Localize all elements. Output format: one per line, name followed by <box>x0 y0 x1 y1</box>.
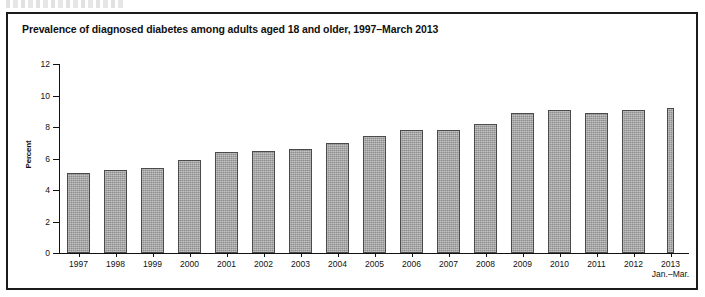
y-axis-tick-label-wrap: 8 <box>16 127 50 128</box>
x-axis-label-1997: 1997 <box>69 259 88 269</box>
x-axis-label-2006: 2006 <box>402 259 421 269</box>
y-axis-tick-label-wrap: 0 <box>16 253 50 254</box>
x-axis-label-1998: 1998 <box>106 259 125 269</box>
y-axis-tick-label: 10 <box>20 91 50 101</box>
x-axis-sublabel-2013: Jan.–Mar. <box>652 269 689 279</box>
bar-slot <box>326 64 349 253</box>
bar-slot <box>67 64 90 253</box>
bar-slot <box>104 64 127 253</box>
x-axis-tick <box>227 253 228 257</box>
plot-area: 024681012 Percent 1997199819992000200120… <box>8 14 700 292</box>
y-axis-tick <box>53 222 59 223</box>
x-axis-tick <box>190 253 191 257</box>
bar-slot <box>437 64 460 253</box>
x-axis-tick <box>264 253 265 257</box>
chart-figure: Prevalence of diagnosed diabetes among a… <box>6 12 698 290</box>
x-axis-label-2001: 2001 <box>217 259 236 269</box>
bar-1999 <box>141 168 164 253</box>
bar-slot <box>474 64 497 253</box>
bar-2010 <box>548 110 571 253</box>
x-axis-label-2002: 2002 <box>254 259 273 269</box>
bar-2007 <box>437 130 460 253</box>
bar-series <box>60 64 689 253</box>
bar-slot <box>667 64 673 253</box>
bar-slot <box>252 64 275 253</box>
x-axis-tick <box>634 253 635 257</box>
x-axis-label-2010: 2010 <box>550 259 569 269</box>
bar-2009 <box>511 113 534 253</box>
bar-slot <box>178 64 201 253</box>
bar-2011 <box>585 113 608 253</box>
x-axis-tick <box>301 253 302 257</box>
y-axis-tick <box>53 96 59 97</box>
x-axis-tick <box>671 253 672 257</box>
x-axis-label-2012: 2012 <box>624 259 643 269</box>
y-axis-tick <box>53 190 59 191</box>
bar-slot <box>141 64 164 253</box>
bar-slot <box>548 64 571 253</box>
bar-2003 <box>289 149 312 253</box>
x-axis-tick <box>116 253 117 257</box>
x-axis-label-2000: 2000 <box>180 259 199 269</box>
bar-2004 <box>326 143 349 253</box>
y-axis-tick-label: 4 <box>20 185 50 195</box>
y-axis-tick-label: 12 <box>20 59 50 69</box>
y-axis-tick <box>53 64 59 65</box>
x-axis-label-2004: 2004 <box>328 259 347 269</box>
x-axis-tick <box>153 253 154 257</box>
x-axis-label-2009: 2009 <box>513 259 532 269</box>
bar-2012 <box>622 110 645 253</box>
bar-2006 <box>400 130 423 253</box>
x-axis-label-2011: 2011 <box>587 259 605 269</box>
bar-2005 <box>363 136 386 253</box>
y-axis-tick <box>53 253 59 254</box>
y-axis-title: Percent <box>24 125 33 185</box>
x-axis-tick <box>338 253 339 257</box>
bar-slot <box>289 64 312 253</box>
bar-2001 <box>215 152 238 253</box>
x-axis-label-1999: 1999 <box>143 259 162 269</box>
y-axis-tick <box>53 159 59 160</box>
x-axis-tick <box>597 253 598 257</box>
bar-2002 <box>252 151 275 253</box>
x-axis-label-2013: 2013 <box>661 259 680 269</box>
y-axis-tick-label-wrap: 6 <box>16 159 50 160</box>
x-axis-tick <box>486 253 487 257</box>
x-axis-label-2005: 2005 <box>365 259 384 269</box>
y-axis-tick-label: 0 <box>20 248 50 258</box>
bar-2000 <box>178 160 201 253</box>
bar-1997 <box>67 173 90 253</box>
x-axis-label-2003: 2003 <box>291 259 310 269</box>
y-axis-tick-label-wrap: 12 <box>16 64 50 65</box>
y-axis-tick <box>53 127 59 128</box>
y-axis-tick-label-wrap: 4 <box>16 190 50 191</box>
x-axis-tick <box>412 253 413 257</box>
x-axis-label-2007: 2007 <box>439 259 458 269</box>
x-axis-tick <box>523 253 524 257</box>
x-axis-tick <box>449 253 450 257</box>
x-axis-tick <box>79 253 80 257</box>
bar-2008 <box>474 124 497 253</box>
x-axis-tick <box>375 253 376 257</box>
bar-slot <box>400 64 423 253</box>
y-axis-tick-label-wrap: 2 <box>16 222 50 223</box>
y-axis-tick-label-wrap: 10 <box>16 96 50 97</box>
bar-slot <box>511 64 534 253</box>
bar-slot <box>215 64 238 253</box>
scan-edge-artifact <box>6 0 126 8</box>
y-axis-tick-label: 2 <box>20 217 50 227</box>
bar-2013 <box>667 108 673 253</box>
x-axis-label-2008: 2008 <box>476 259 495 269</box>
x-axis-tick <box>560 253 561 257</box>
bar-1998 <box>104 170 127 253</box>
bar-slot <box>585 64 608 253</box>
bar-slot <box>363 64 386 253</box>
bar-slot <box>622 64 645 253</box>
